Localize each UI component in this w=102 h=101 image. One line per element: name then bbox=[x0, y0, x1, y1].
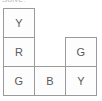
grid-cell-label: G bbox=[77, 47, 86, 58]
grid-cell-r2c0[interactable]: G bbox=[3, 66, 35, 96]
grid-cell-label: Y bbox=[77, 76, 85, 87]
grid-cell-r0c0[interactable]: Y bbox=[3, 8, 35, 38]
grid-cell-r1c0[interactable]: R bbox=[3, 37, 35, 67]
clipped-caption: Solve: bbox=[2, 0, 62, 4]
grid-cell-r2c1[interactable]: B bbox=[34, 66, 66, 96]
grid-cell-label: G bbox=[15, 76, 24, 87]
grid-cell-label: Y bbox=[15, 18, 23, 29]
grid-cell-r2c2[interactable]: Y bbox=[65, 66, 97, 96]
grid-cell-r1c2[interactable]: G bbox=[65, 37, 97, 67]
grid-cell-label: B bbox=[46, 76, 54, 87]
polyomino-grid: Y R G G B Y bbox=[3, 8, 99, 95]
puzzle-canvas: Solve: Y R G G B Y bbox=[0, 0, 102, 101]
grid-cell-label: R bbox=[15, 47, 23, 58]
